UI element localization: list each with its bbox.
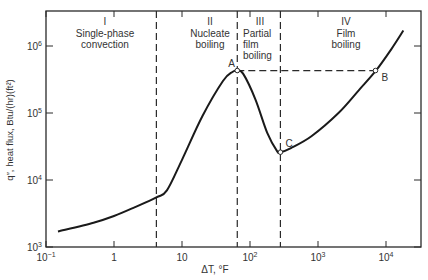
point-label-c: C — [285, 138, 292, 149]
point-marker-a — [235, 68, 240, 73]
region-description-line: Nucleate — [190, 28, 230, 39]
region-description-line: Partial — [243, 28, 271, 39]
region-description-line: Single-phase — [76, 28, 135, 39]
y-tick-label: 104 — [27, 174, 42, 186]
region-description-line: Film — [337, 28, 356, 39]
y-axis-ticks: 103104105106 — [27, 40, 421, 253]
y-tick-label: 105 — [27, 107, 42, 119]
region-label-i: ISingle-phaseconvection — [76, 16, 135, 50]
point-label-b: B — [381, 72, 388, 83]
x-tick-label: 10 — [176, 252, 188, 263]
x-axis-label: ΔT, °F — [201, 264, 228, 275]
point-marker-c — [278, 150, 283, 155]
region-labels: ISingle-phaseconvectionIINucleateboiling… — [76, 16, 361, 61]
region-label-iv: IVFilmboiling — [332, 16, 361, 50]
x-tick-label: 1 — [111, 252, 117, 263]
region-description-line: convection — [81, 39, 129, 50]
x-tick-label: 102 — [242, 251, 257, 263]
region-description-line: boiling — [332, 39, 361, 50]
labeled-points: ABC — [228, 58, 388, 155]
boiling-curve-chart: ABC 10−1110102103104 103104105106 ISingl… — [0, 0, 428, 280]
x-tick-label: 104 — [378, 251, 393, 263]
region-numeral: I — [104, 16, 107, 27]
y-tick-label: 106 — [27, 40, 42, 52]
region-description-line: boiling — [196, 39, 225, 50]
region-description-line: boiling — [243, 50, 272, 61]
region-label-iii: IIIPartialfilmboiling — [243, 16, 272, 61]
region-description-line: film — [243, 39, 259, 50]
point-marker-b — [373, 68, 378, 73]
region-numeral: III — [256, 16, 264, 27]
x-tick-label: 103 — [310, 251, 325, 263]
region-label-ii: IINucleateboiling — [190, 16, 230, 50]
x-tick-label: 10−1 — [36, 251, 55, 263]
point-label-a: A — [228, 58, 235, 69]
region-numeral: II — [207, 16, 213, 27]
y-axis-label: q″, heat flux, Btu/(hr)(ft²) — [4, 79, 15, 181]
region-numeral: IV — [341, 16, 351, 27]
